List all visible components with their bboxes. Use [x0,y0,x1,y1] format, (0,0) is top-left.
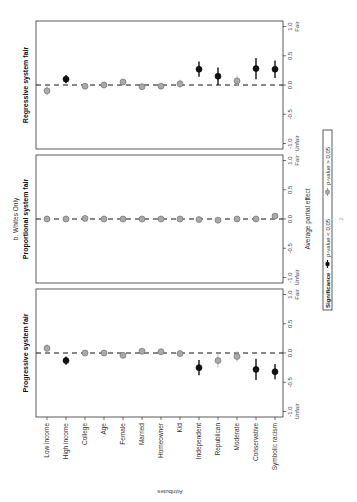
page-number: 2 [338,217,344,221]
point-nonsignificant [177,216,183,222]
axis-tick-label: 0.5 [287,185,293,194]
point-nonsignificant [82,83,88,89]
category-label: Republican [214,423,222,456]
axis-tick-label: -1.0 [287,138,293,149]
point-nonsignificant [139,348,145,354]
panel-title: Proportional system fair [22,178,30,259]
axis-tick-label: 1.0 [287,22,293,31]
axis-tick-label: -0.5 [287,108,293,119]
point-nonsignificant [234,216,240,222]
point-nonsignificant [82,215,88,221]
legend-title: Significance [325,272,331,308]
point-nonsignificant [158,349,164,355]
category-label: High income [62,423,70,460]
fair-label: Fair [294,289,300,299]
legend-sig-label: p-value < 0.05 [325,218,331,257]
axis-tick-label: 0.0 [287,214,293,223]
point-nonsignificant [120,352,126,358]
point-nonsignificant [253,216,259,222]
legend-nonsig-icon [325,190,329,194]
point-nonsignificant [139,216,145,222]
axis-tick-label: 0.0 [287,80,293,89]
point-nonsignificant [63,216,69,222]
category-label: Symbolic racism [271,423,279,470]
x-axis-label: Average partial effect [304,188,312,249]
point-nonsignificant [215,358,221,364]
axis-tick-label: -0.5 [287,242,293,253]
point-significant [196,365,202,371]
point-nonsignificant [234,78,240,84]
point-nonsignificant [158,83,164,89]
axis-tick-label: 0.0 [287,348,293,357]
point-nonsignificant [44,345,50,351]
point-nonsignificant [196,217,202,223]
category-label: Independent [195,423,203,459]
point-nonsignificant [101,350,107,356]
point-significant [253,66,259,72]
category-label: Married [138,423,145,445]
axis-tick-label: 1.0 [287,290,293,299]
figure-subtitle: b. Whites Only [12,197,20,240]
point-nonsignificant [101,82,107,88]
category-label: Homeowner [157,422,164,458]
point-nonsignificant [101,216,107,222]
axis-tick-label: -1.0 [287,406,293,417]
category-label: Kid [176,423,183,433]
point-nonsignificant [272,213,278,219]
axis-tick-label: 1.0 [287,156,293,165]
category-label: Conservative [252,423,259,461]
figure: Regressive system fair-1.0-0.50.00.51.0F… [0,0,357,502]
point-nonsignificant [234,354,240,360]
point-significant [272,66,278,72]
point-significant [63,76,69,82]
unfair-label: Unfair [294,135,300,151]
point-nonsignificant [44,216,50,222]
point-nonsignificant [120,216,126,222]
point-nonsignificant [44,88,50,94]
point-nonsignificant [82,350,88,356]
legend-nonsig-label: p-value > 0.05 [325,146,331,185]
axis-tick-label: 0.5 [287,51,293,60]
point-significant [272,369,278,375]
point-significant [253,366,259,372]
category-label: Female [119,423,126,445]
category-label: Low income [43,423,50,458]
legend-sig-icon [325,262,329,266]
point-nonsignificant [215,217,221,223]
point-nonsignificant [177,351,183,357]
point-nonsignificant [139,84,145,90]
panel-title: Regressive system fair [22,47,30,124]
point-nonsignificant [177,81,183,87]
point-significant [196,66,202,72]
axis-tick-label: -0.5 [287,376,293,387]
panel-title: Progressive system fair [22,313,30,392]
unfair-label: Unfair [294,403,300,419]
point-significant [63,358,69,364]
axis-tick-label: -1.0 [287,272,293,283]
point-nonsignificant [158,216,164,222]
axis-tick-label: 0.5 [287,319,293,328]
fair-label: Fair [294,155,300,165]
category-label: Moderate [233,423,240,451]
unfair-label: Unfair [294,269,300,285]
y-axis-label: Attributes [157,489,182,495]
point-nonsignificant [120,79,126,85]
point-significant [215,73,221,79]
category-label: Age [100,423,108,435]
category-label: College [81,423,89,445]
fair-label: Fair [294,21,300,31]
